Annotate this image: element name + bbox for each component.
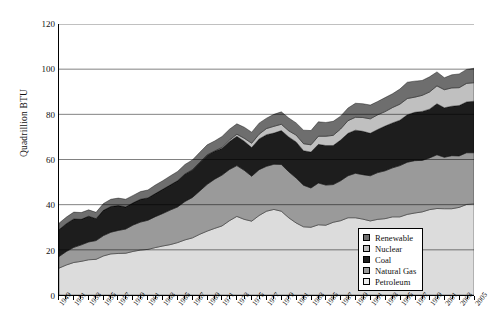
legend-swatch-icon bbox=[363, 278, 370, 285]
y-axis-tick: 120 bbox=[25, 19, 55, 29]
legend-item: Renewable bbox=[363, 232, 416, 243]
y-axis-tick: 80 bbox=[25, 110, 55, 120]
x-axis-tick-labels: 1949195119531955195719591961196319651967… bbox=[58, 296, 474, 336]
chart-legend: RenewableNuclearCoalNatural GasPetroleum bbox=[358, 228, 423, 291]
y-axis-tick: 100 bbox=[25, 64, 55, 74]
y-axis-tick: 0 bbox=[25, 291, 55, 301]
legend-swatch-icon bbox=[363, 256, 370, 263]
y-axis-tick-labels: 020406080100120 bbox=[22, 0, 55, 336]
legend-label: Petroleum bbox=[375, 277, 410, 287]
legend-label: Natural Gas bbox=[375, 266, 416, 276]
legend-label: Coal bbox=[375, 255, 391, 265]
legend-item: Nuclear bbox=[363, 243, 416, 254]
legend-item: Coal bbox=[363, 254, 416, 265]
legend-item: Natural Gas bbox=[363, 265, 416, 276]
legend-label: Nuclear bbox=[375, 244, 402, 254]
y-axis-tick: 60 bbox=[25, 155, 55, 165]
legend-swatch-icon bbox=[363, 234, 370, 241]
legend-label: Renewable bbox=[375, 233, 413, 243]
legend-item: Petroleum bbox=[363, 276, 416, 287]
legend-swatch-icon bbox=[363, 267, 370, 274]
x-axis-tick: 2005 bbox=[473, 290, 489, 307]
y-axis-tick: 40 bbox=[25, 200, 55, 210]
legend-swatch-icon bbox=[363, 245, 370, 252]
y-axis-tick: 20 bbox=[25, 246, 55, 256]
